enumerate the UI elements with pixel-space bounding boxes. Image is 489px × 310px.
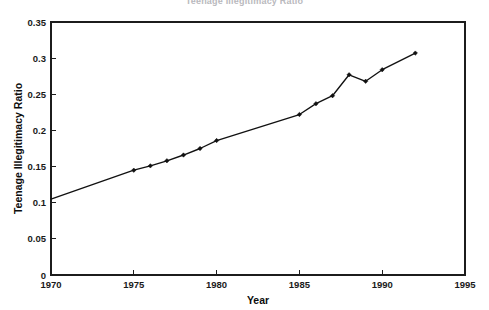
x-tick-label: 1995 — [454, 279, 476, 290]
x-axis-ticks — [51, 270, 465, 275]
y-tick-label: 0.05 — [28, 233, 47, 244]
data-point-marker — [198, 146, 202, 150]
x-axis-tick-labels: 1970 1975 1980 1985 1990 1995 — [40, 279, 476, 290]
y-tick-label: 0.1 — [33, 197, 47, 208]
line-chart-plot: 0 0.05 0.1 0.15 0.2 0.25 0.3 0.35 1970 1… — [0, 0, 489, 310]
x-tick-label: 1990 — [372, 279, 393, 290]
chart-figure: Teenage Illegitimacy Ratio 0 0.05 0.1 0.… — [0, 0, 489, 310]
y-tick-label: 0.15 — [28, 161, 47, 172]
data-point-marker — [214, 138, 218, 142]
x-tick-label: 1975 — [123, 279, 145, 290]
y-tick-label: 0.2 — [33, 125, 46, 136]
data-point-marker — [165, 159, 169, 163]
y-tick-label: 0.25 — [28, 89, 47, 100]
data-point-marker — [181, 153, 185, 157]
data-series-layer — [51, 51, 418, 199]
y-axis-tick-labels: 0 0.05 0.1 0.15 0.2 0.25 0.3 0.35 — [28, 17, 47, 281]
series-line — [51, 53, 415, 199]
x-tick-label: 1980 — [206, 279, 227, 290]
x-tick-label: 1970 — [40, 279, 61, 290]
x-tick-label: 1985 — [289, 279, 311, 290]
y-tick-label: 0.35 — [28, 17, 47, 28]
data-point-marker — [132, 168, 136, 172]
x-axis-title: Year — [247, 294, 269, 306]
data-point-marker — [413, 51, 417, 55]
y-tick-label: 0.3 — [33, 53, 46, 64]
y-axis-ticks — [51, 22, 56, 275]
data-point-marker — [148, 164, 152, 168]
y-axis-title: Teenage Illegitimacy Ratio — [12, 83, 24, 214]
